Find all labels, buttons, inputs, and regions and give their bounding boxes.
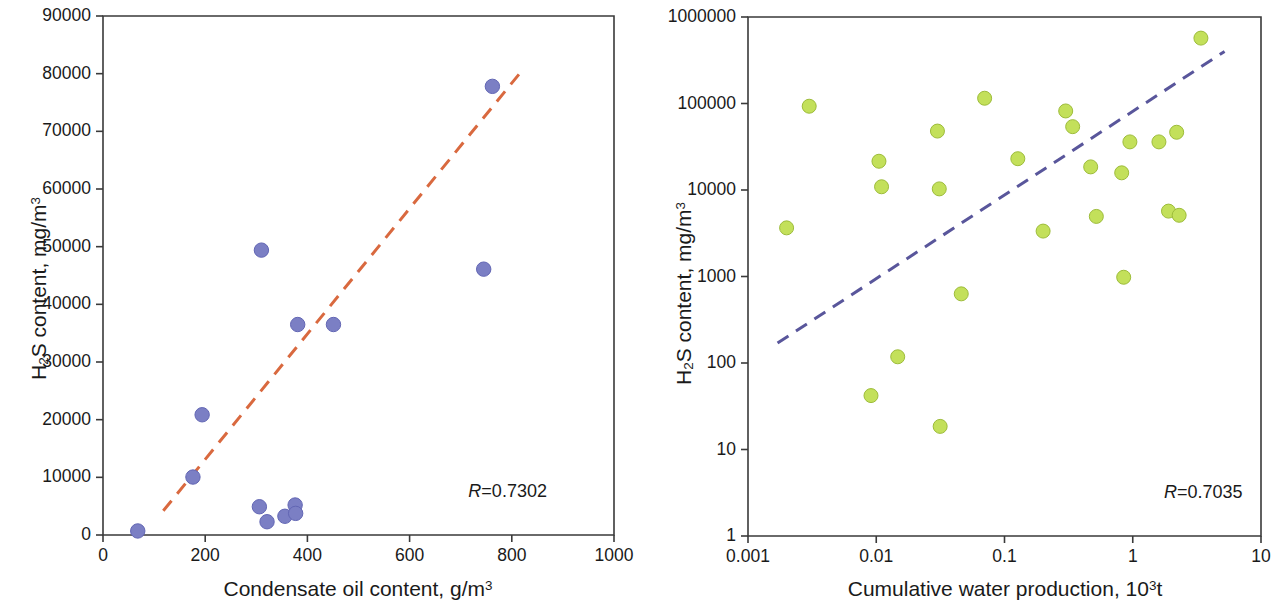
plot-frame (103, 16, 614, 535)
correlation-value: =0.7302 (481, 481, 547, 501)
data-point (875, 180, 889, 194)
data-point (131, 524, 145, 538)
y-axis-tick-label: 90000 (42, 7, 91, 25)
y-axis-title-text: H2S content, mg/m3 (672, 202, 695, 385)
data-point (1123, 135, 1137, 149)
y-axis-tick-label: 40000 (42, 296, 91, 314)
x-axis-tick-label: 0.001 (726, 548, 770, 566)
data-point (290, 317, 304, 331)
data-point (485, 79, 499, 93)
x-axis-tick-label: 200 (191, 547, 220, 565)
correlation-annotation-right: R=0.7035 (1164, 483, 1243, 501)
y-axis-tick-label: 30000 (42, 353, 91, 371)
data-point (864, 389, 878, 403)
plot-frame (748, 17, 1261, 536)
y-axis-tick-label: 50000 (42, 238, 91, 256)
data-point (252, 500, 266, 514)
y-axis-tick-label: 20000 (42, 411, 91, 429)
y-axis-tick-label: 1000 (697, 268, 736, 286)
data-point (1036, 224, 1050, 238)
data-point (780, 221, 794, 235)
x-axis-tick-label: 600 (395, 547, 424, 565)
x-axis-title-text: Cumulative water production, 103t (848, 577, 1163, 600)
data-point (254, 243, 268, 257)
y-axis-title-right: H2S content, mg/m3 (673, 202, 696, 385)
data-point-group (131, 79, 500, 538)
x-axis-title-left: Condensate oil content, g/m3 (224, 578, 493, 599)
data-point (1066, 120, 1080, 134)
correlation-symbol: R (468, 481, 481, 501)
data-point (802, 99, 816, 113)
x-axis-title-text: Condensate oil content, g/m3 (224, 577, 493, 600)
y-axis-tick-label: 10 (717, 441, 736, 459)
figure-container: H2S content, mg/m3 Condensate oil conten… (0, 0, 1286, 606)
correlation-value: =0.7035 (1177, 482, 1243, 502)
data-point (260, 515, 274, 529)
y-axis-tick-label: 10000 (42, 469, 91, 487)
x-axis-tick-label: 1 (1128, 548, 1138, 566)
data-point (978, 91, 992, 105)
data-point (933, 419, 947, 433)
data-point (932, 182, 946, 196)
data-point (891, 350, 905, 364)
data-point (1115, 166, 1129, 180)
chart-panel-right: H2S content, mg/m3 Cumulative water prod… (643, 0, 1286, 606)
data-point (1089, 209, 1103, 223)
scatter-plot-right (643, 0, 1286, 606)
data-point (872, 154, 886, 168)
data-point (1059, 104, 1073, 118)
data-point (288, 506, 302, 520)
y-axis-tick-label: 100000 (678, 95, 736, 113)
x-axis-tick-label: 0.1 (992, 548, 1016, 566)
data-point (1117, 270, 1131, 284)
x-axis-tick-label: 10 (1251, 548, 1270, 566)
x-axis-tick-label: 800 (497, 547, 526, 565)
x-axis-tick-label: 0.01 (859, 548, 893, 566)
data-point (195, 408, 209, 422)
data-point (1170, 125, 1184, 139)
data-point (954, 287, 968, 301)
chart-panel-left: H2S content, mg/m3 Condensate oil conten… (0, 0, 643, 606)
trendline (163, 74, 519, 511)
y-axis-tick-label: 0 (81, 526, 91, 544)
correlation-symbol: R (1164, 482, 1177, 502)
y-axis-tick-label: 1 (726, 527, 736, 545)
trendline (778, 51, 1225, 343)
data-point (1152, 135, 1166, 149)
data-point (1011, 152, 1025, 166)
data-point (1172, 208, 1186, 222)
data-point (1084, 160, 1098, 174)
y-axis-tick-label: 1000000 (668, 8, 736, 26)
x-axis-tick-label: 1000 (595, 547, 634, 565)
y-axis-tick-label: 60000 (42, 180, 91, 198)
data-point (476, 262, 490, 276)
y-axis-tick-label: 10000 (687, 181, 736, 199)
data-point (930, 124, 944, 138)
x-axis-title-right: Cumulative water production, 103t (848, 578, 1163, 599)
x-axis-tick-label: 400 (293, 547, 322, 565)
data-point-group (780, 31, 1208, 433)
y-axis-tick-label: 70000 (42, 123, 91, 141)
y-axis-tick-label: 100 (707, 354, 736, 372)
y-axis-tick-label: 80000 (42, 65, 91, 83)
x-axis-tick-label: 0 (98, 547, 108, 565)
data-point (186, 470, 200, 484)
correlation-annotation-left: R=0.7302 (468, 482, 547, 500)
scatter-plot-left (0, 0, 643, 606)
data-point (1194, 31, 1208, 45)
data-point (326, 317, 340, 331)
